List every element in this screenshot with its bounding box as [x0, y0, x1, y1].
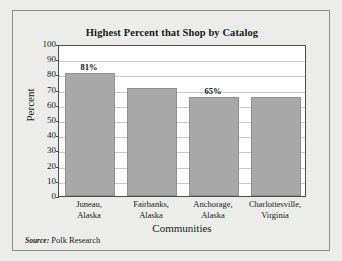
y-tick-label: 20 — [34, 162, 56, 171]
y-tick-label: 40 — [34, 131, 56, 140]
bar — [251, 97, 301, 196]
y-tick-label: 100 — [34, 40, 56, 49]
bar-value-label: 81% — [59, 62, 119, 72]
y-tick-mark — [56, 45, 59, 46]
chart-figure: Highest Percent that Shop by Catalog Per… — [0, 0, 342, 261]
x-tick-label: Charlottesville,Virginia — [230, 199, 320, 220]
y-tick-label: 60 — [34, 101, 56, 110]
y-tick-label: 70 — [34, 86, 56, 95]
bar — [65, 73, 115, 196]
figure-frame: Highest Percent that Shop by Catalog Per… — [12, 10, 330, 251]
y-axis-ticks: 0102030405060708090100 — [32, 45, 56, 197]
y-tick-mark — [56, 182, 59, 183]
source-text: Polk Research — [49, 235, 100, 245]
bar — [189, 97, 239, 196]
source-lead: Source: — [25, 236, 49, 245]
bar — [127, 88, 177, 196]
y-tick-label: 30 — [34, 146, 56, 155]
y-tick-mark — [56, 91, 59, 92]
chart-title: Highest Percent that Shop by Catalog — [13, 27, 331, 38]
bar-value-label: 65% — [183, 86, 243, 96]
x-tick-line: Virginia — [230, 210, 320, 221]
y-tick-label: 50 — [34, 116, 56, 125]
y-tick-mark — [56, 136, 59, 137]
y-tick-mark — [56, 121, 59, 122]
y-tick-mark — [56, 151, 59, 152]
y-tick-label: 80 — [34, 70, 56, 79]
x-tick-line: Charlottesville, — [230, 199, 320, 210]
y-tick-mark — [56, 60, 59, 61]
y-tick-mark — [56, 167, 59, 168]
y-tick-label: 90 — [34, 55, 56, 64]
y-tick-mark — [56, 75, 59, 76]
y-tick-label: 10 — [34, 177, 56, 186]
x-axis-label: Communities — [58, 222, 306, 234]
source-note: Source: Polk Research — [25, 235, 100, 245]
y-tick-mark — [56, 106, 59, 107]
y-tick-mark — [56, 197, 59, 198]
